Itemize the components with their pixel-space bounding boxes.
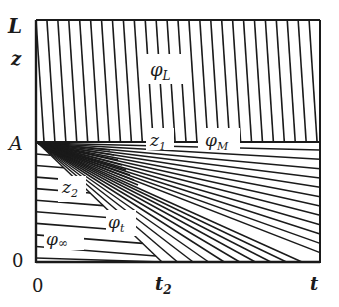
hatch-line [254,20,262,142]
phi-L-subscript: L [162,69,171,83]
lower-line [36,212,116,218]
lower-line [36,166,64,168]
hatch-line [102,20,110,142]
hatch-line [123,20,131,142]
phi-inf-symbol: φ [46,229,58,249]
z2-subscript: 2 [70,187,78,200]
hatch-line [80,20,88,142]
axis-label-z: z [10,48,22,69]
hatch-line [244,20,252,142]
hatch-line [91,20,99,142]
hatch-line [134,20,142,142]
phi-M-symbol: φ [205,130,217,150]
hatch-line [276,20,284,142]
hatch-line [309,20,317,142]
phi-inf-subscript: ∞ [58,236,68,250]
axis-label-L: L [7,14,22,38]
axis-label-t: t [310,273,319,294]
hatch-line [47,20,55,142]
hatch-line [222,20,230,142]
characteristics-diagram: L z A 0 0 t2 t φL z1 φM z2 φt φ∞ [0,0,339,307]
hatch-line [211,20,219,142]
hatch-line [298,20,306,142]
x-tick-t2: t2 [155,273,172,297]
t2-subscript: 2 [162,283,171,297]
phi-t-symbol: φ [108,212,120,232]
phi-t-subscript: t [120,222,125,235]
z1-subscript: 1 [159,140,166,153]
hatch-line [200,20,208,142]
x-origin-label: 0 [32,275,43,296]
hatch-line [112,20,120,142]
hatch-line [69,20,77,142]
y-origin-label: 0 [12,250,23,271]
hatch-line [58,20,66,142]
hatch-line [233,20,241,142]
hatch-line [189,20,197,142]
phi-M-subscript: M [216,140,229,153]
lower-line [36,154,51,155]
hatch-line [265,20,273,142]
phi-L-symbol: φ [150,59,163,80]
hatch-line [287,20,295,142]
axis-label-A: A [7,132,23,154]
